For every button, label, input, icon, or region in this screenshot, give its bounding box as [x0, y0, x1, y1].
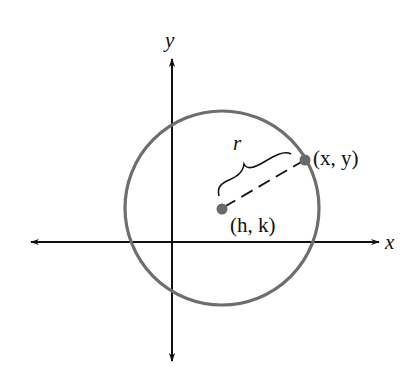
circle-diagram: y x r (x, y) (h, k)	[0, 0, 416, 381]
radius-line	[224, 161, 303, 207]
circle-point	[300, 155, 311, 166]
radius-label: r	[233, 131, 242, 155]
point-label: (x, y)	[313, 146, 359, 170]
diagram-canvas: y x r (x, y) (h, k)	[0, 0, 416, 381]
y-axis-label: y	[163, 28, 175, 52]
center-point	[217, 204, 228, 215]
x-axis-label: x	[384, 230, 395, 254]
center-label: (h, k)	[230, 213, 276, 237]
